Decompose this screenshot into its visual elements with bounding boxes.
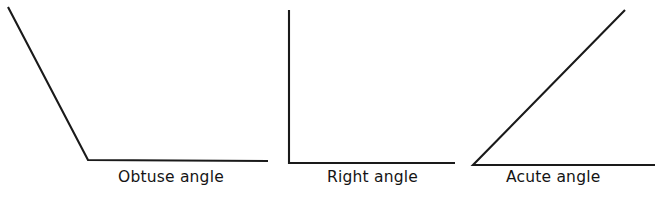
obtuse-angle-polyline — [8, 7, 268, 161]
right-angle-caption: Right angle — [327, 170, 418, 186]
acute-angle-polyline — [473, 10, 655, 165]
obtuse-angle-caption: Obtuse angle — [118, 170, 224, 186]
acute-angle-caption: Acute angle — [506, 170, 600, 186]
obtuse-angle-drawing — [8, 7, 268, 161]
right-angle-drawing — [289, 10, 455, 163]
right-angle-polyline — [289, 10, 455, 163]
angle-types-figure: Obtuse angle Right angle Acute angle — [0, 0, 670, 199]
acute-angle-drawing — [473, 10, 655, 165]
